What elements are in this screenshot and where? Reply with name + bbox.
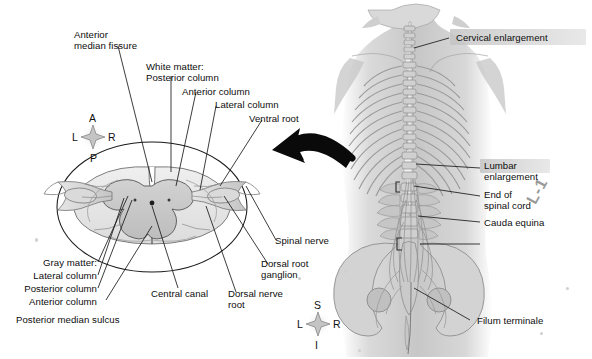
central-canal-dot [150,201,155,206]
compass-inferior-letter: I [315,339,318,351]
scan-speck-6 [358,349,361,352]
label-lateral-column: Lateral column [215,99,279,110]
scan-speck-4 [566,287,569,290]
label-white-matter: White matter: Posterior column [146,61,219,83]
mastoid-right [452,16,470,28]
label-gray-matter: Gray matter: [0,257,97,268]
compass-right-letter: R [108,131,116,143]
orientation-compass-torso [305,311,331,337]
label-posterior-median-sulcus: Posterior median sulcus [16,314,120,325]
label-gray-anterior-column: Anterior column [0,296,97,307]
label-cauda-equina: Cauda equina [484,217,544,228]
gray-commissure-dot-right [168,199,171,202]
label-central-canal: Central canal [151,288,208,299]
label-gray-posterior-column: Posterior column [0,283,97,294]
orientation-compass-cross-section [80,124,106,150]
compass-left-letter-torso: L [297,318,303,330]
label-dorsal-root-ganglion: Dorsal root ganglion [261,258,308,280]
label-filum-terminale: Filum terminale [477,315,543,326]
label-ventral-root: Ventral root [249,113,299,124]
label-lumbar-enlargement: Lumbar enlargement [484,160,538,182]
label-end-of-spinal-cord: End of spinal cord [484,189,531,211]
scan-speck-1 [35,238,38,242]
gray-commissure-dot-left [134,199,137,202]
compass-superior-letter: S [314,299,321,311]
leader-ventral-root [220,120,262,186]
torso-illustration [334,4,506,357]
label-anterior-column: Anterior column [182,86,250,97]
scan-speck-2 [298,277,301,280]
leader-spinal-nerve [246,186,276,240]
label-dorsal-nerve-root: Dorsal nerve root [228,288,283,310]
label-cervical-enlargement: Cervical enlargement [456,32,548,43]
label-anterior-median-fissure: Anterior median fissure [74,29,137,51]
compass-anterior-letter: A [89,112,96,124]
scan-speck-5 [540,332,543,335]
compass-right-letter-torso: R [333,318,341,330]
mastoid-left [362,16,380,28]
compass-left-letter: L [72,131,78,143]
magnification-arrow [272,128,352,168]
label-spinal-nerve: Spinal nerve [275,235,329,246]
label-gray-lateral-column: Lateral column [0,270,97,281]
scan-speck-3 [344,270,347,273]
leader-dorsal-root-ganglion [224,196,268,264]
compass-posterior-letter: P [90,152,97,164]
